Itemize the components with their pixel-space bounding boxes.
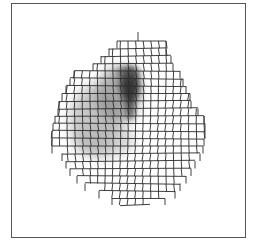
mesh-col-line bbox=[158, 56, 159, 64]
mesh-col-line bbox=[127, 176, 128, 184]
mesh-col-line bbox=[127, 146, 128, 154]
mesh-col-line bbox=[127, 184, 128, 192]
mesh-col-line bbox=[174, 176, 175, 184]
mesh-col-line bbox=[172, 101, 173, 109]
mesh-col-line bbox=[150, 116, 151, 124]
mesh-col-line bbox=[151, 41, 152, 49]
mesh-col-line bbox=[165, 139, 166, 147]
mesh-col-line bbox=[142, 139, 143, 147]
mesh-col-line bbox=[98, 161, 99, 169]
mesh-col-line bbox=[173, 131, 174, 139]
mesh-col-line bbox=[127, 199, 128, 206]
mesh-col-line bbox=[158, 49, 159, 57]
mesh-col-line bbox=[158, 101, 159, 109]
mesh-col-line bbox=[181, 169, 182, 177]
mesh-col-line bbox=[180, 116, 181, 124]
mesh-col-line bbox=[166, 184, 167, 192]
mesh-col-line bbox=[188, 94, 189, 102]
mesh-col-line bbox=[173, 139, 174, 147]
mesh-col-line bbox=[90, 161, 91, 169]
mesh-col-line bbox=[143, 41, 144, 49]
mesh-row-line bbox=[77, 176, 186, 177]
mesh-col-line bbox=[81, 79, 82, 87]
mesh-col-line bbox=[143, 56, 144, 64]
mesh-col-line bbox=[173, 86, 174, 94]
mesh-col-line bbox=[142, 176, 143, 184]
mesh-col-line bbox=[180, 109, 181, 117]
mesh-col-line bbox=[135, 139, 136, 147]
mesh-col-line bbox=[196, 139, 197, 147]
mesh-row-line bbox=[66, 85, 186, 86]
mesh-col-line bbox=[188, 116, 189, 124]
mesh-col-line bbox=[150, 176, 151, 184]
mesh-col-line bbox=[165, 101, 166, 109]
mesh-col-line bbox=[150, 124, 151, 132]
mesh-col-line bbox=[135, 146, 136, 154]
mesh-col-line bbox=[157, 146, 158, 154]
mesh-col-line bbox=[134, 161, 135, 169]
mesh-col-line bbox=[127, 161, 128, 169]
mesh-col-line bbox=[142, 131, 143, 139]
mesh-col-line bbox=[119, 176, 120, 184]
mesh-col-line bbox=[120, 64, 121, 72]
mesh-col-line bbox=[134, 169, 135, 177]
mesh-row-line bbox=[99, 190, 175, 191]
mesh-col-line bbox=[90, 169, 91, 177]
mesh-col-line bbox=[74, 79, 75, 87]
mesh-row-line bbox=[109, 48, 166, 49]
mesh-col-line bbox=[142, 169, 143, 177]
mesh-col-line bbox=[165, 146, 166, 154]
mesh-col-line bbox=[143, 49, 144, 57]
mesh-col-line bbox=[172, 116, 173, 124]
mesh-col-line bbox=[173, 79, 174, 87]
mesh-col-line bbox=[120, 169, 121, 177]
mesh-col-line bbox=[113, 139, 114, 147]
mesh-col-line bbox=[51, 139, 52, 147]
mesh-col-line bbox=[75, 161, 76, 169]
mesh-col-line bbox=[180, 94, 181, 102]
mesh-col-line bbox=[151, 56, 152, 64]
mesh-col-line bbox=[181, 131, 182, 139]
mesh-col-line bbox=[196, 109, 197, 117]
mesh-col-line bbox=[120, 161, 121, 169]
mesh-row-line bbox=[70, 168, 191, 169]
mesh-col-line bbox=[142, 146, 143, 154]
mesh-col-line bbox=[66, 101, 67, 109]
mesh-col-line bbox=[157, 124, 158, 132]
mesh-row-line bbox=[66, 160, 195, 162]
deformation-mesh-plot bbox=[0, 0, 253, 246]
mesh-col-line bbox=[151, 71, 152, 79]
mesh-col-line bbox=[119, 184, 120, 192]
mesh-col-line bbox=[165, 109, 166, 117]
mesh-col-line bbox=[143, 64, 144, 72]
mesh-col-line bbox=[89, 71, 90, 79]
mesh-col-line bbox=[75, 154, 76, 162]
mesh-col-line bbox=[151, 79, 152, 87]
mesh-col-line bbox=[143, 86, 144, 94]
mesh-col-line bbox=[127, 169, 128, 177]
mesh-col-line bbox=[105, 184, 106, 192]
mesh-col-line bbox=[142, 154, 143, 162]
mesh-col-line bbox=[112, 184, 113, 192]
mesh-col-line bbox=[75, 146, 76, 154]
mesh-col-line bbox=[119, 191, 120, 199]
mesh-col-line bbox=[158, 161, 159, 169]
mesh-col-line bbox=[136, 41, 137, 49]
mesh-col-line bbox=[158, 64, 159, 72]
mesh-col-line bbox=[143, 79, 144, 87]
mesh-col-line bbox=[173, 124, 174, 132]
mesh-col-line bbox=[150, 139, 151, 147]
mesh-col-line bbox=[151, 64, 152, 72]
mesh-col-line bbox=[150, 154, 151, 162]
mesh-col-line bbox=[157, 116, 158, 124]
mesh-col-line bbox=[151, 49, 152, 57]
mesh-col-line bbox=[135, 154, 136, 162]
mesh-figure bbox=[0, 0, 253, 246]
mesh-col-line bbox=[189, 161, 190, 169]
mesh-col-line bbox=[143, 71, 144, 79]
mesh-col-line bbox=[181, 161, 182, 169]
mesh-col-line bbox=[112, 176, 113, 184]
mesh-col-line bbox=[74, 101, 75, 109]
mesh-col-line bbox=[158, 41, 159, 49]
mesh-col-line bbox=[74, 86, 75, 94]
